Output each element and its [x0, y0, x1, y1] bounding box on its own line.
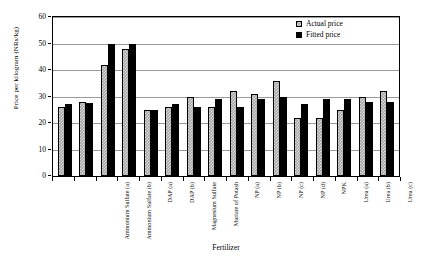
bar-group: [97, 17, 119, 176]
bar-actual: [273, 81, 280, 176]
bar-actual: [208, 107, 215, 176]
bar-group: [355, 17, 377, 176]
x-tick-mark: [378, 177, 379, 181]
bar-group: [54, 17, 76, 176]
x-tick-mark: [161, 177, 162, 181]
bar-group: [269, 17, 291, 176]
bar-fitted: [258, 99, 265, 176]
x-tick-mark: [357, 177, 358, 181]
y-tick-label-50: 50: [22, 39, 46, 48]
legend-item-actual-price: Actual price: [296, 18, 343, 29]
chart-legend: Actual price Fitted price: [296, 18, 343, 40]
x-category-label: NP (a): [254, 182, 261, 240]
bar-group: [334, 17, 356, 176]
bar-fitted: [366, 102, 373, 176]
bar-group: [140, 17, 162, 176]
x-tick-mark: [248, 177, 249, 181]
bar-actual: [144, 110, 151, 176]
bar-actual: [316, 118, 323, 176]
bar-actual: [337, 110, 344, 176]
x-tick-mark: [139, 177, 140, 181]
y-tick-mark-50: [48, 43, 51, 44]
x-category-label: Urea (c): [407, 182, 414, 240]
x-tick-mark: [52, 177, 53, 181]
x-tick-mark: [183, 177, 184, 181]
x-category-label: Muriate of Potash: [233, 182, 240, 240]
bar-actual: [79, 102, 86, 176]
y-tick-label-20: 20: [22, 118, 46, 127]
x-tick-mark: [313, 177, 314, 181]
bar-group: [248, 17, 270, 176]
x-category-label: NPK: [341, 182, 348, 240]
bar-fitted: [237, 107, 244, 176]
x-tick-mark: [96, 177, 97, 181]
x-tick-mark: [74, 177, 75, 181]
legend-label-fitted-price: Fitted price: [306, 29, 340, 40]
x-tick-mark: [335, 177, 336, 181]
x-category-label: Urea (b): [385, 182, 392, 240]
bar-group: [76, 17, 98, 176]
x-category-label: DAP (a): [167, 182, 174, 240]
legend-label-actual-price: Actual price: [306, 18, 343, 29]
y-tick-label-30: 30: [22, 92, 46, 101]
bar-chart: Price per kilogram (NRs/kg) 010203040506…: [0, 0, 421, 263]
bar-actual: [294, 118, 301, 176]
y-axis-title: Price per kilogram (NRs/kg): [12, 8, 20, 128]
y-tick-label-40: 40: [22, 65, 46, 74]
x-tick-mark: [291, 177, 292, 181]
y-tick-label-60: 60: [22, 12, 46, 21]
x-axis-category-labels: Ammonium Sulfate (a)Ammonium Sulfate (b)…: [52, 182, 400, 240]
bar-actual: [101, 65, 108, 176]
x-category-label: Magnesium Sulfate: [211, 182, 218, 240]
y-tick-mark-30: [48, 96, 51, 97]
bar-actual: [380, 91, 387, 176]
bar-fitted: [387, 102, 394, 176]
bar-fitted: [172, 104, 179, 176]
x-tick-mark: [270, 177, 271, 181]
legend-item-fitted-price: Fitted price: [296, 29, 343, 40]
bar-actual: [187, 97, 194, 177]
x-category-label: NP (c): [298, 182, 305, 240]
x-category-label: Ammonium Sulfate (b): [146, 182, 153, 240]
x-category-label: DAP (b): [189, 182, 196, 240]
bar-group: [377, 17, 399, 176]
bar-fitted: [280, 97, 287, 177]
bar-fitted: [301, 104, 308, 176]
bar-group: [205, 17, 227, 176]
bar-actual: [122, 49, 129, 176]
y-tick-mark-0: [48, 175, 51, 176]
y-tick-label-10: 10: [22, 145, 46, 154]
bar-group: [162, 17, 184, 176]
x-tick-mark: [117, 177, 118, 181]
x-category-label: NP (d): [320, 182, 327, 240]
bar-groups: [53, 17, 399, 176]
bar-fitted: [86, 103, 93, 176]
y-tick-mark-10: [48, 149, 51, 150]
y-tick-mark-60: [48, 16, 51, 17]
y-tick-label-0: 0: [22, 171, 46, 180]
x-tick-mark: [226, 177, 227, 181]
bar-fitted: [194, 107, 201, 176]
bar-group: [291, 17, 313, 176]
bar-actual: [230, 91, 237, 176]
x-tick-mark: [400, 177, 401, 181]
bar-fitted: [215, 99, 222, 176]
bar-actual: [251, 94, 258, 176]
bar-group: [226, 17, 248, 176]
bar-fitted: [344, 99, 351, 176]
bar-group: [183, 17, 205, 176]
x-category-label: NP (b): [276, 182, 283, 240]
plot-area: [52, 16, 400, 177]
bar-actual: [359, 97, 366, 177]
bar-actual: [165, 107, 172, 176]
fitted-price-swatch: [296, 32, 302, 38]
y-tick-mark-40: [48, 69, 51, 70]
x-category-label: Ammonium Sulfate (a): [124, 182, 131, 240]
y-tick-mark-20: [48, 122, 51, 123]
bar-group: [312, 17, 334, 176]
actual-price-swatch: [296, 21, 302, 27]
bar-fitted: [108, 44, 115, 177]
x-category-label: Urea (a): [363, 182, 370, 240]
bar-fitted: [151, 110, 158, 176]
bar-fitted: [323, 99, 330, 176]
